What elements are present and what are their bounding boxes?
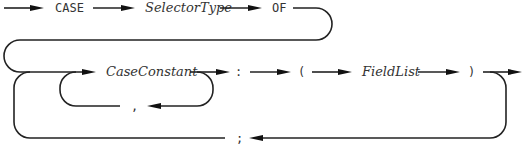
field-list-nonterminal: FieldList — [361, 64, 421, 79]
selector-type-nonterminal: SelectorType — [145, 0, 232, 15]
outer-loop-right-line — [490, 72, 506, 138]
arrow-right-icon — [338, 69, 352, 75]
row-2: CaseConstant : ( FieldList ) — [20, 64, 522, 79]
arrow-right-icon — [82, 69, 96, 75]
arrow-right-icon — [277, 69, 291, 75]
loop-right-line — [197, 72, 213, 106]
case-keyword: CASE — [55, 1, 84, 15]
colon-symbol: : — [235, 65, 242, 79]
variant-loop: ; — [14, 72, 506, 145]
arrow-right-icon — [248, 5, 262, 11]
arrow-right-icon — [446, 69, 460, 75]
semicolon-separator: ; — [236, 131, 243, 145]
comma-separator: , — [131, 99, 138, 113]
case-constant-nonterminal: CaseConstant — [106, 64, 198, 79]
arrow-left-icon — [249, 135, 263, 141]
arrow-right-icon — [121, 5, 135, 11]
right-paren-symbol: ) — [468, 65, 475, 79]
arrow-left-icon — [147, 103, 161, 109]
arrow-right-icon — [508, 69, 522, 75]
syntax-diagram: CASE SelectorType OF CaseConstant : ( Fi… — [0, 0, 526, 146]
arrow-right-icon — [30, 5, 44, 11]
row-1: CASE SelectorType OF — [4, 0, 332, 72]
wrap-curve — [4, 40, 20, 72]
left-paren-symbol: ( — [298, 65, 305, 79]
outer-loop-left-line — [14, 72, 225, 138]
arrow-right-icon — [216, 69, 230, 75]
of-keyword: OF — [272, 1, 286, 15]
